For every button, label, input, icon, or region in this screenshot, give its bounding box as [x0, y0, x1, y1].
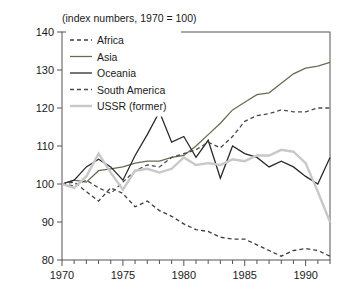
y-axis: 8090100110120130140 — [36, 26, 62, 266]
x-tick-label: 1985 — [232, 269, 256, 281]
y-tick-label: 80 — [42, 254, 54, 266]
y-tick-label: 110 — [36, 140, 54, 152]
series-line-ussr-former — [62, 150, 330, 222]
legend-label-1: Asia — [97, 51, 118, 63]
chart-subtitle: (index numbers, 1970 = 100) — [62, 12, 197, 24]
y-tick-label: 100 — [36, 178, 54, 190]
x-tick-label: 1990 — [293, 269, 317, 281]
chart-container: (index numbers, 1970 = 100) 809010011012… — [0, 0, 349, 298]
x-tick-label: 1975 — [111, 269, 135, 281]
x-tick-label: 1970 — [50, 269, 74, 281]
series-line-oceania — [62, 112, 330, 184]
y-tick-label: 90 — [42, 216, 54, 228]
legend-label-3: South America — [97, 84, 165, 96]
series-line-africa — [62, 182, 330, 256]
y-tick-label: 130 — [36, 64, 54, 76]
chart-legend: AfricaAsiaOceaniaSouth AmericaUSSR (form… — [66, 30, 181, 117]
y-tick-label: 120 — [36, 102, 54, 114]
x-tick-label: 1980 — [172, 269, 196, 281]
line-chart: (index numbers, 1970 = 100) 809010011012… — [0, 0, 349, 298]
legend-label-0: Africa — [97, 34, 124, 46]
legend-label-2: Oceania — [97, 67, 136, 79]
legend-label-4: USSR (former) — [97, 100, 166, 112]
y-tick-label: 140 — [36, 26, 54, 38]
x-axis: 19701975198019851990 — [50, 260, 330, 281]
